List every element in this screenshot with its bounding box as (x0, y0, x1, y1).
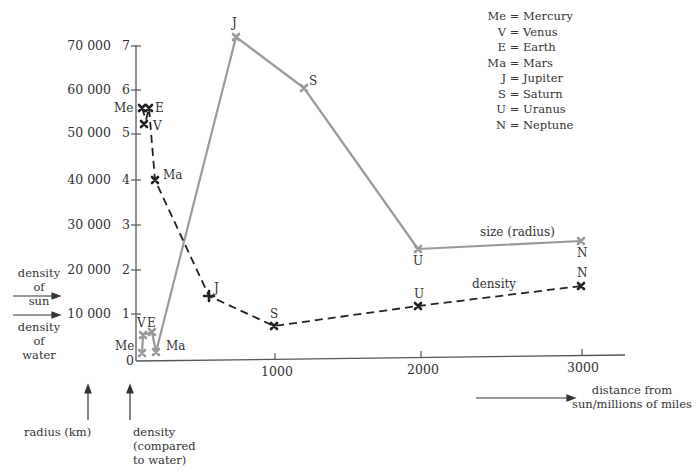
cross-marker-v (141, 121, 147, 127)
cross-marker-s (301, 85, 307, 91)
density-tick: 1 (122, 306, 130, 321)
radius-tick-labels: 70 000 60 000 50 000 40 000 30 000 20 00… (67, 38, 111, 321)
legend-name: Neptune (523, 118, 573, 132)
legend-name: Mars (523, 56, 553, 70)
label-j: J (230, 16, 237, 30)
legend-item: J = Jupiter (470, 71, 573, 87)
density-tick: 3 (122, 217, 130, 232)
x-tick: 1000 (261, 364, 293, 379)
legend-item: Me = Mercury (470, 9, 573, 25)
label-s: S (309, 74, 317, 88)
legend-item: V = Venus (470, 25, 573, 41)
legend-abbr: V (470, 25, 506, 41)
distance-axis-label: distance from sun/millions of miles (572, 383, 692, 411)
label-u: U (414, 287, 424, 301)
legend-abbr: U (470, 102, 506, 118)
density-tick: 7 (122, 38, 130, 53)
density-point-labels: Me E V Ma J S U N (114, 101, 588, 321)
density-of-water-label: density of water (12, 320, 66, 362)
legend-item: E = Earth (470, 40, 573, 56)
label-v: V (136, 316, 146, 330)
cross-marker-s (271, 323, 277, 329)
legend: Me = Mercury V = Venus E = Earth Ma = Ma… (470, 9, 573, 133)
density-series-markers (139, 105, 584, 329)
radius-tick: 30 000 (67, 217, 111, 232)
x-tick: 2000 (407, 362, 439, 377)
x-axis (136, 355, 625, 361)
density-axis-label: density (compared to water) (133, 425, 196, 467)
legend-item: U = Uranus (470, 102, 573, 118)
size-series-label: size (radius) (480, 225, 555, 239)
density-tick-labels: 7 6 5 4 3 2 1 0 (122, 38, 134, 368)
density-series-label: density (472, 277, 516, 291)
radius-axis-label: radius (km) (24, 425, 91, 439)
label-ma: Ma (166, 339, 185, 353)
label-e: E (147, 316, 156, 330)
density-tick: 6 (122, 82, 130, 97)
label-me: Me (115, 339, 134, 353)
label-u: U (413, 254, 423, 268)
plus-marker-j (204, 291, 214, 301)
legend-abbr: Ma (470, 56, 506, 72)
legend-name: Saturn (523, 87, 563, 101)
label-ma: Ma (163, 168, 182, 182)
x-tick-labels: 1000 2000 3000 (261, 360, 599, 379)
legend-name: Venus (523, 25, 558, 39)
legend-item: S = Saturn (470, 87, 573, 103)
label-e: E (155, 101, 164, 115)
legend-abbr: S (470, 87, 506, 103)
label-me: Me (114, 101, 133, 115)
radius-tick: 50 000 (67, 125, 111, 140)
label-n: N (577, 246, 588, 260)
legend-abbr: N (470, 118, 506, 134)
density-tick: 4 (122, 172, 130, 187)
density-tick: 0 (126, 353, 134, 368)
legend-name: Jupiter (523, 71, 563, 85)
legend-abbr: J (470, 71, 506, 87)
legend-item: Ma = Mars (470, 56, 573, 72)
legend-name: Earth (523, 40, 556, 54)
density-of-sun-label: density of sun (12, 266, 66, 308)
radius-tick: 10 000 (67, 306, 111, 321)
x-tick: 3000 (567, 360, 599, 375)
radius-tick: 60 000 (67, 82, 111, 97)
density-tick: 2 (122, 262, 130, 277)
label-j: J (212, 281, 219, 295)
radius-tick: 40 000 (67, 172, 111, 187)
label-n: N (577, 266, 588, 280)
radius-tick: 20 000 (67, 262, 111, 277)
legend-abbr: Me (470, 9, 506, 25)
label-v: V (152, 119, 162, 133)
label-s: S (270, 307, 278, 321)
legend-name: Uranus (523, 102, 566, 116)
density-tick: 5 (122, 125, 130, 140)
legend-abbr: E (470, 40, 506, 56)
legend-item: N = Neptune (470, 118, 573, 134)
radius-tick: 70 000 (67, 38, 111, 53)
legend-name: Mercury (523, 9, 573, 23)
